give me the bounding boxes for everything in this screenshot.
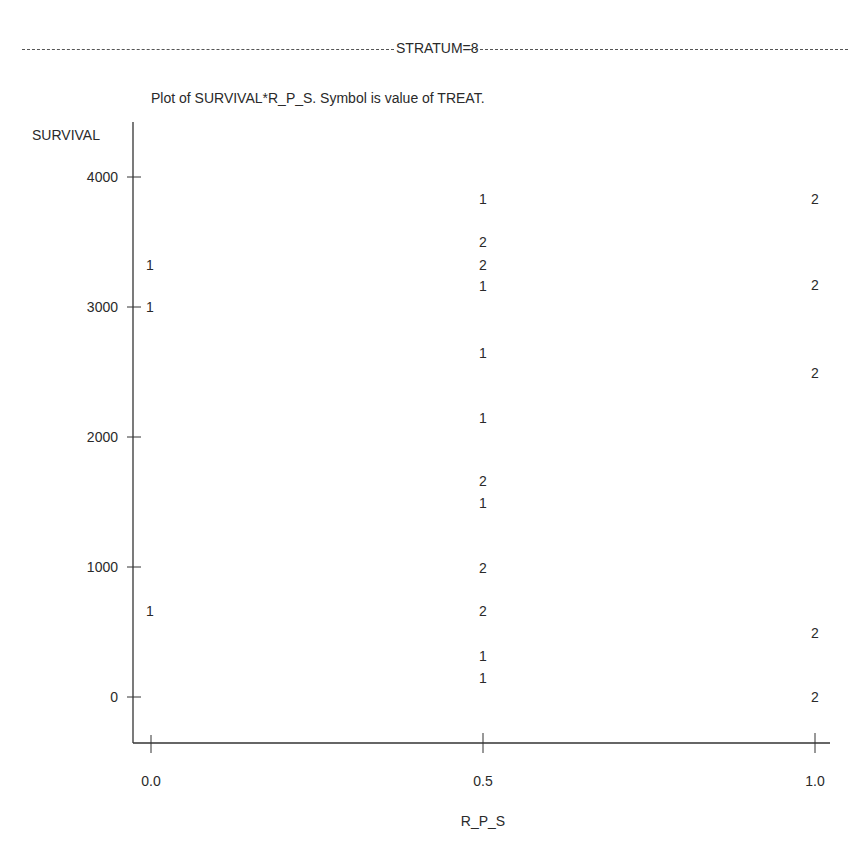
x-tick-0-5: 0.5	[473, 773, 492, 789]
data-point-treat-2: 2	[479, 235, 487, 249]
data-point-treat-2: 2	[811, 626, 819, 640]
y-tick-4000: 4000	[68, 169, 118, 185]
data-point-treat-1: 1	[479, 192, 487, 206]
axes	[0, 0, 862, 852]
data-point-treat-2: 2	[811, 192, 819, 206]
data-point-treat-2: 2	[479, 561, 487, 575]
data-point-treat-2: 2	[479, 474, 487, 488]
data-point-treat-2: 2	[479, 604, 487, 618]
data-point-treat-2: 2	[479, 258, 487, 272]
data-point-treat-2: 2	[811, 690, 819, 704]
y-tick-0: 0	[68, 689, 118, 705]
data-point-treat-1: 1	[479, 671, 487, 685]
x-tick-0-0: 0.0	[141, 773, 160, 789]
x-tick-1-0: 1.0	[805, 773, 824, 789]
y-tick-2000: 2000	[68, 429, 118, 445]
data-point-treat-1: 1	[146, 604, 154, 618]
data-point-treat-1: 1	[479, 346, 487, 360]
x-axis-label: R_P_S	[461, 813, 505, 829]
data-point-treat-2: 2	[811, 278, 819, 292]
y-tick-3000: 3000	[68, 299, 118, 315]
data-point-treat-1: 1	[146, 258, 154, 272]
y-tick-1000: 1000	[68, 559, 118, 575]
data-point-treat-1: 1	[146, 300, 154, 314]
data-point-treat-1: 1	[479, 279, 487, 293]
data-point-treat-2: 2	[811, 366, 819, 380]
data-point-treat-1: 1	[479, 411, 487, 425]
data-point-treat-1: 1	[479, 649, 487, 663]
data-point-treat-1: 1	[479, 496, 487, 510]
